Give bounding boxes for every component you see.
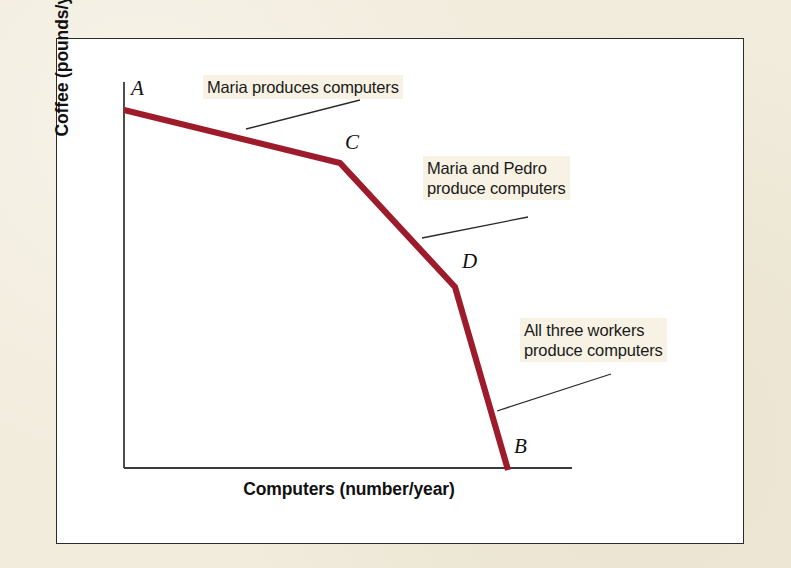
annotation-maria-and-pedro: Maria and Pedro produce computers (423, 156, 570, 200)
point-label-a: A (131, 78, 144, 99)
annotation-all-three-workers-line-2: produce computers (524, 340, 663, 360)
annotation-all-three-workers: All three workers produce computers (520, 318, 667, 362)
annotation-maria-and-pedro-line-2: produce computers (427, 178, 566, 198)
figure-root: Coffee (pounds/year) Computers (number/y… (0, 0, 791, 568)
point-label-c: C (345, 132, 359, 153)
plot-panel (56, 38, 744, 544)
point-label-d: D (462, 251, 477, 272)
annotation-maria-only: Maria produces computers (203, 75, 403, 99)
annotation-all-three-workers-line-1: All three workers (524, 320, 663, 340)
x-axis-title: Computers (number/year) (124, 479, 574, 500)
point-label-b: B (514, 436, 527, 457)
annotation-maria-and-pedro-line-1: Maria and Pedro (427, 158, 566, 178)
y-axis-title: Coffee (pounds/year) (52, 0, 78, 200)
annotation-maria-only-line-1: Maria produces computers (207, 77, 399, 97)
